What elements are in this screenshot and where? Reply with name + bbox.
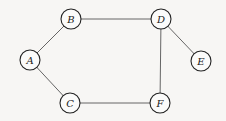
node-c: C	[60, 93, 80, 113]
node-e: E	[191, 51, 211, 71]
nodes-layer: ABCDEF	[20, 9, 211, 113]
edges-layer	[30, 19, 201, 103]
node-label: E	[196, 56, 205, 67]
node-label: B	[66, 14, 74, 25]
node-label: C	[66, 98, 74, 109]
node-a: A	[20, 50, 40, 70]
node-label: A	[25, 55, 33, 66]
edge-d-f	[160, 19, 161, 103]
node-d: D	[151, 9, 171, 29]
node-b: B	[61, 9, 81, 29]
graph-diagram: ABCDEF	[0, 0, 226, 121]
node-label: F	[156, 98, 165, 109]
node-f: F	[150, 93, 170, 113]
node-label: D	[156, 14, 165, 25]
